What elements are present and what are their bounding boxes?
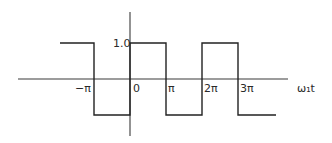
y-tick-label: 1.0 [113,37,131,50]
square-wave-figure: 1.0 −π 0 π 2π 3π ω₁t [0,0,332,143]
x-tick-label-3pi: 3π [240,82,254,95]
x-tick-label-neg-pi: −π [75,82,91,95]
x-axis-label: ω₁t [297,82,316,95]
x-tick-label-2pi: 2π [204,82,218,95]
x-tick-label-pi: π [168,82,175,95]
x-tick-label-zero: 0 [133,82,140,95]
